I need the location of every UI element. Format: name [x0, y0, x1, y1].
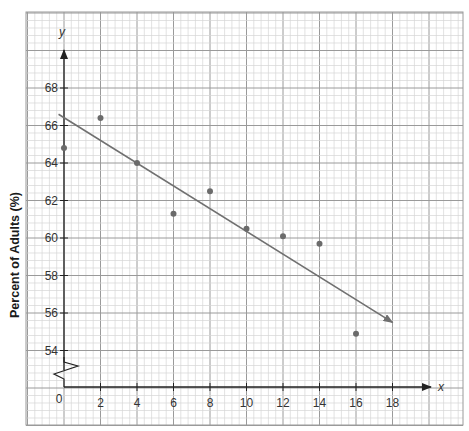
data-point [61, 145, 67, 151]
data-point [207, 188, 213, 194]
y-tick-label: 68 [45, 81, 59, 95]
x-tick-label: 4 [134, 396, 141, 410]
y-tick-label: 56 [45, 306, 59, 320]
data-point [280, 233, 286, 239]
x-axis-letter: x [437, 380, 445, 394]
y-tick-label: 54 [45, 344, 59, 358]
x-tick-label: 2 [97, 396, 104, 410]
x-tick-label: 6 [170, 396, 177, 410]
x-tick-label: 18 [386, 396, 400, 410]
data-point [134, 160, 140, 166]
data-point [171, 211, 177, 217]
data-point [353, 331, 359, 337]
grid [26, 12, 463, 426]
x-tick-label: 14 [313, 396, 327, 410]
data-point [244, 226, 250, 232]
y-tick-label: 62 [45, 194, 59, 208]
x-tick-label: 16 [349, 396, 363, 410]
y-tick-label: 60 [45, 231, 59, 245]
scatter-chart: 5456586062646668024681012141618xy [0, 0, 469, 431]
trend-line [59, 114, 393, 322]
data-point [317, 241, 323, 247]
y-axis-letter: y [58, 25, 66, 39]
x-tick-label: 12 [276, 396, 290, 410]
axes [54, 50, 431, 387]
y-tick-label: 64 [45, 156, 59, 170]
y-tick-label: 66 [45, 119, 59, 133]
y-tick-label: 58 [45, 269, 59, 283]
x-tick-label: 10 [240, 396, 254, 410]
x-tick-label: 8 [207, 396, 214, 410]
x-tick-label: 0 [56, 392, 63, 406]
data-point [98, 115, 104, 121]
